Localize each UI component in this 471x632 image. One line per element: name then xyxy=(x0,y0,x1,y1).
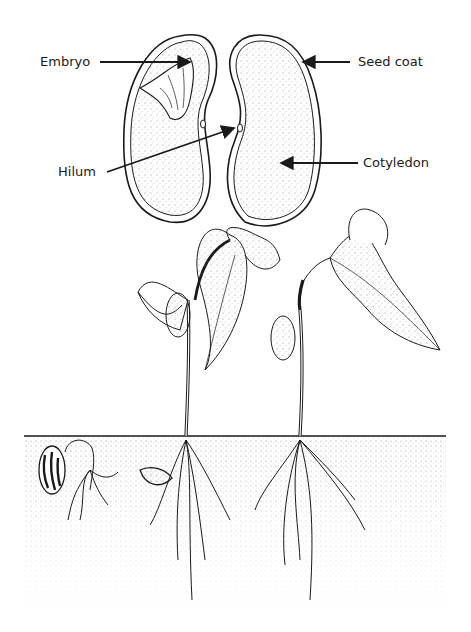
stage-young-plant-1 xyxy=(195,227,280,370)
label-hilum: Hilum xyxy=(58,164,96,179)
diagram-canvas xyxy=(0,0,471,632)
seed-right-half xyxy=(227,35,321,226)
soil xyxy=(24,436,446,616)
label-cotyledon: Cotyledon xyxy=(363,155,429,170)
label-embryo: Embryo xyxy=(40,54,90,69)
label-seed-coat: Seed coat xyxy=(358,54,423,69)
